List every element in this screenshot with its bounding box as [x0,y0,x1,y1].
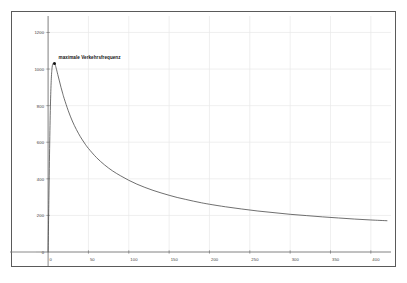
x-tick-label: 350 [332,257,339,262]
y-tick-label: 200 [24,213,44,218]
chart-figure: 0200400600800100012000501001502002503003… [0,0,407,283]
x-tick-label: 400 [372,257,379,262]
peak-annotation-label: maximale Verkehrsfrequenz [59,55,121,60]
plot-canvas [0,0,407,283]
x-tick-label: 250 [251,257,258,262]
y-tick-label: 1200 [24,30,44,35]
axis-lines [10,16,391,266]
x-tick-label: 200 [211,257,218,262]
gridlines [36,16,391,252]
x-tick-label: 150 [171,257,178,262]
x-tick-label: 50 [90,257,95,262]
axis-ticks [47,32,371,253]
y-tick-label: 0 [24,250,44,255]
y-tick-label: 600 [24,140,44,145]
x-tick-label: 300 [292,257,299,262]
y-tick-label: 800 [24,103,44,108]
x-tick-label: 100 [130,257,137,262]
y-tick-label: 1000 [24,67,44,72]
x-tick-label: 0 [50,257,52,262]
series-line [48,63,387,252]
y-tick-label: 400 [24,176,44,181]
data-series [48,63,387,252]
